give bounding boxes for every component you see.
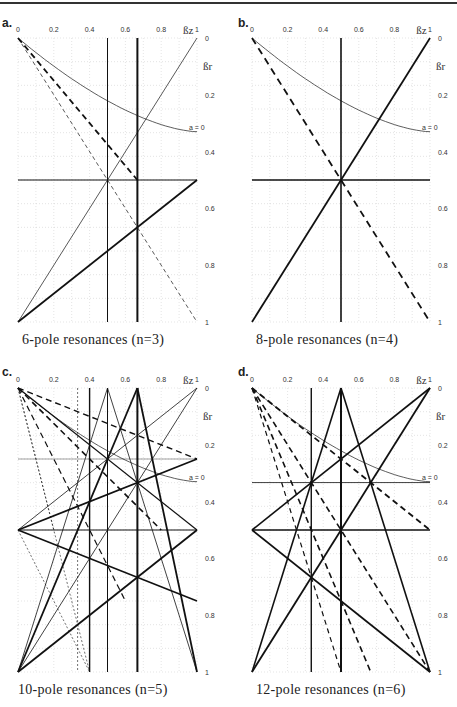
panel-label: d. <box>238 365 249 379</box>
panel-caption: 10-pole resonances (n=5) <box>18 682 168 698</box>
x-tick-label: 1 <box>195 26 199 33</box>
panel-label: a. <box>2 16 12 30</box>
panel-c: 00.20.40.60.81ßz00.20.40.60.81ßra = 0 <box>16 374 215 676</box>
x-tick-label: 1 <box>195 376 199 383</box>
y-tick-label: 0 <box>438 385 442 392</box>
x-tick-label: 0.8 <box>390 376 400 383</box>
y-tick-label: 1 <box>205 319 209 326</box>
y-tick-label: 0.4 <box>438 499 448 506</box>
y-tick-label: 0.4 <box>205 499 215 506</box>
y-tick-label: 1 <box>438 319 442 326</box>
panel-d: 00.20.40.60.81ßz00.20.40.60.81ßra = 0 <box>250 374 448 676</box>
y-tick-label: 0.2 <box>438 92 448 99</box>
x-tick-label: 0.6 <box>121 26 131 33</box>
x-axis-label: ßz <box>416 374 427 386</box>
x-tick-label: 0.4 <box>85 26 95 33</box>
panel-caption: 12-pole resonances (n=6) <box>256 682 406 698</box>
y-tick-label: 0.8 <box>438 262 448 269</box>
x-tick-label: 0.2 <box>49 26 59 33</box>
y-tick-label: 0.4 <box>205 149 215 156</box>
y-axis-label: ßr <box>203 60 213 72</box>
x-tick-label: 0 <box>250 376 254 383</box>
y-tick-label: 1 <box>205 669 209 676</box>
x-tick-label: 1 <box>428 376 432 383</box>
y-tick-label: 0.2 <box>205 442 215 449</box>
y-tick-label: 0.8 <box>205 262 215 269</box>
y-tick-label: 0.2 <box>438 442 448 449</box>
x-tick-label: 0 <box>250 26 254 33</box>
panel-b: 00.20.40.60.81ßz00.20.40.60.81ßra = 0 <box>250 24 448 326</box>
panel-label: b. <box>238 16 249 30</box>
panel-a: 00.20.40.60.81ßz00.20.40.60.81ßra = 0 <box>16 24 215 326</box>
x-tick-label: 1 <box>428 26 432 33</box>
x-tick-label: 0.8 <box>156 376 166 383</box>
y-tick-label: 0.6 <box>205 205 215 212</box>
x-tick-label: 0.2 <box>283 26 293 33</box>
x-tick-label: 0.4 <box>318 376 328 383</box>
y-axis-label: ßr <box>436 410 446 422</box>
x-axis-label: ßz <box>183 374 194 386</box>
x-tick-label: 0 <box>16 26 20 33</box>
x-tick-label: 0.8 <box>156 26 166 33</box>
x-tick-label: 0.4 <box>318 26 328 33</box>
y-tick-label: 0.6 <box>205 555 215 562</box>
y-tick-label: 0 <box>438 35 442 42</box>
y-tick-label: 0.8 <box>205 612 215 619</box>
y-axis-label: ßr <box>436 60 446 72</box>
curve-label: a = 0 <box>422 124 438 131</box>
y-tick-label: 1 <box>438 669 442 676</box>
curve-label: a = 0 <box>189 124 205 131</box>
panel-caption: 6-pole resonances (n=3) <box>22 332 164 348</box>
x-axis-label: ßz <box>416 24 427 36</box>
x-tick-label: 0.2 <box>49 376 59 383</box>
y-tick-label: 0.2 <box>205 92 215 99</box>
curve-label: a = 0 <box>189 474 205 481</box>
y-axis-label: ßr <box>203 410 213 422</box>
y-tick-label: 0 <box>205 385 209 392</box>
x-tick-label: 0.2 <box>283 376 293 383</box>
panel-label: c. <box>2 365 12 379</box>
x-tick-label: 0 <box>16 376 20 383</box>
y-tick-label: 0.8 <box>438 612 448 619</box>
x-tick-label: 0.6 <box>354 376 364 383</box>
diagram-canvas: 00.20.40.60.81ßz00.20.40.60.81ßra = 000.… <box>0 0 457 707</box>
panel-caption: 8-pole resonances (n=4) <box>256 332 398 348</box>
y-tick-label: 0.6 <box>438 555 448 562</box>
y-tick-label: 0.6 <box>438 205 448 212</box>
x-tick-label: 0.4 <box>85 376 95 383</box>
curve-label: a = 0 <box>422 474 438 481</box>
x-tick-label: 0.8 <box>390 26 400 33</box>
x-tick-label: 0.6 <box>354 26 364 33</box>
x-axis-label: ßz <box>183 24 194 36</box>
y-tick-label: 0.4 <box>438 149 448 156</box>
y-tick-label: 0 <box>205 35 209 42</box>
x-tick-label: 0.6 <box>121 376 131 383</box>
